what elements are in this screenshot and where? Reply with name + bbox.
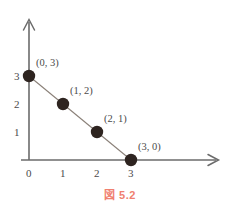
data-point xyxy=(23,70,35,82)
plot-canvas xyxy=(0,0,240,209)
y-tick-label-1: 1 xyxy=(14,127,20,138)
data-point xyxy=(57,98,69,110)
x-tick-label-2: 2 xyxy=(94,168,100,179)
data-point xyxy=(91,126,103,138)
figure-caption: 図 5.2 xyxy=(0,186,240,202)
x-tick-label-0: 0 xyxy=(26,168,32,179)
x-tick-label-3: 3 xyxy=(128,168,134,179)
y-tick-label-3: 3 xyxy=(14,71,20,82)
point-label-3-0: (3, 0) xyxy=(138,142,161,153)
data-point xyxy=(125,154,137,166)
point-label-1-2: (1, 2) xyxy=(70,86,93,97)
figure-container: 3 2 1 0 1 2 3 (0, 3) (1, 2) (2, 1) (3, 0… xyxy=(0,0,240,209)
y-tick-label-2: 2 xyxy=(14,99,20,110)
point-label-2-1: (2, 1) xyxy=(104,114,127,125)
x-tick-label-1: 1 xyxy=(60,168,66,179)
point-label-0-3: (0, 3) xyxy=(36,58,59,69)
